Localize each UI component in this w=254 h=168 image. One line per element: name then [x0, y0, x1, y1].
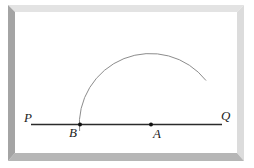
frame-bottom	[8, 153, 244, 161]
diagram-canvas: P Q B A	[0, 0, 254, 168]
point-b	[78, 123, 82, 127]
label-q: Q	[221, 108, 231, 123]
frame-right	[237, 5, 244, 161]
geometry-figure: P Q B A	[0, 0, 254, 168]
label-p: P	[23, 110, 32, 125]
frame-left	[8, 5, 15, 161]
frame-inner	[15, 12, 237, 153]
picture-frame	[8, 5, 244, 161]
label-a: A	[152, 126, 161, 141]
label-b: B	[69, 125, 77, 140]
frame-top	[8, 5, 244, 12]
